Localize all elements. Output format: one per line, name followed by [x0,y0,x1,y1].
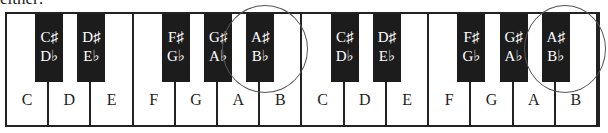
sharp-label: C♯ [35,28,63,47]
white-key-label: E [91,91,131,109]
white-key-label: A [514,91,554,109]
black-key[interactable]: F♯G♭ [457,14,485,82]
white-key-label: G [471,91,511,109]
black-key[interactable]: G♯A♭ [500,14,528,82]
white-key-label: C [303,91,343,109]
white-key-label: D [49,91,89,109]
sharp-label: C♯ [331,28,359,47]
sharp-label: D♯ [77,28,105,47]
flat-label: E♭ [77,47,105,66]
white-key-label: A [218,91,258,109]
black-key[interactable]: C♯D♭ [35,14,63,82]
white-key-label: B [556,91,596,109]
sharp-label: G♯ [500,28,528,47]
white-key-label: F [429,91,469,109]
flat-label: G♭ [162,47,190,66]
flat-label: A♭ [500,47,528,66]
piano-keyboard: CDEFGABCDEFGABC♯D♭D♯E♭F♯G♭G♯A♭A♯B♭C♯D♭D♯… [5,12,600,127]
black-key[interactable]: F♯G♭ [162,14,190,82]
sharp-label: A♯ [246,28,274,47]
sharp-label: G♯ [204,28,232,47]
flat-label: B♭ [246,47,274,66]
flat-label: A♭ [204,47,232,66]
black-key[interactable]: C♯D♭ [331,14,359,82]
black-key[interactable]: D♯E♭ [373,14,401,82]
flat-label: B♭ [542,47,570,66]
black-key[interactable]: D♯E♭ [77,14,105,82]
black-key[interactable]: G♯A♭ [204,14,232,82]
sharp-label: A♯ [542,28,570,47]
flat-label: D♭ [35,47,63,66]
white-key-label: F [134,91,174,109]
sharp-label: D♯ [373,28,401,47]
white-key-label: G [176,91,216,109]
white-key-label: E [387,91,427,109]
flat-label: E♭ [373,47,401,66]
flat-label: D♭ [331,47,359,66]
white-key-label: B [260,91,300,109]
black-key[interactable]: A♯B♭ [542,14,570,82]
white-key-label: D [345,91,385,109]
sharp-label: F♯ [457,28,485,47]
sharp-label: F♯ [162,28,190,47]
caption-text: either: [0,0,43,9]
black-key[interactable]: A♯B♭ [246,14,274,82]
white-key-label: C [7,91,47,109]
flat-label: G♭ [457,47,485,66]
